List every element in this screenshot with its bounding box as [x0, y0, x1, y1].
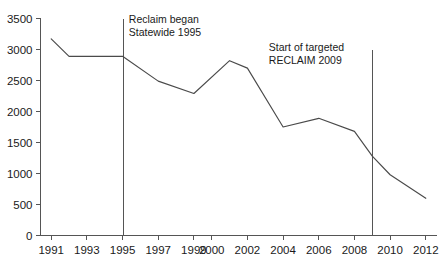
annotation-text-targeted-reclaim-2009: Start of targeted [269, 41, 344, 53]
y-tick-label: 2000 [7, 106, 33, 118]
y-tick-label: 500 [13, 199, 32, 211]
y-tick-label: 1000 [7, 168, 33, 180]
y-tick-label: 0 [26, 230, 32, 242]
line-chart: 0500100015002000250030003500 19911993199… [0, 0, 441, 266]
annotation-text-reclaim-statewide-1995: Reclaim began [129, 13, 199, 25]
data-series-line [51, 39, 426, 198]
chart-container: 0500100015002000250030003500 19911993199… [0, 0, 441, 266]
x-tick-label: 1995 [110, 244, 136, 256]
annotation-text-reclaim-statewide-1995: Statewide 1995 [129, 26, 202, 38]
x-tick-label: 2004 [270, 244, 296, 256]
annotation-text-targeted-reclaim-2009: RECLAIM 2009 [269, 54, 342, 66]
x-tick-label: 2010 [377, 244, 403, 256]
x-tick-label: 2006 [306, 244, 332, 256]
x-tick-label: 1993 [74, 244, 100, 256]
y-tick-label: 3000 [7, 44, 33, 56]
chart-axes [41, 19, 437, 236]
series-line [51, 39, 426, 198]
x-tick-label: 2008 [342, 244, 368, 256]
y-tick-label: 3500 [7, 13, 33, 25]
y-tick-label: 1500 [7, 137, 33, 149]
annotation-labels: Reclaim beganStatewide 1995Start of targ… [129, 13, 344, 66]
y-tick-label: 2500 [7, 75, 33, 87]
x-tick-label: 2000 [199, 244, 225, 256]
y-axis-tick-labels: 0500100015002000250030003500 [7, 13, 33, 242]
x-tick-label: 1991 [38, 244, 64, 256]
x-tick-label: 2012 [413, 244, 439, 256]
x-tick-label: 2002 [235, 244, 261, 256]
chart-tick-marks [36, 19, 426, 241]
x-axis-tick-labels: 1991199319951997199920002002200420062008… [38, 244, 438, 256]
x-tick-label: 1997 [145, 244, 171, 256]
